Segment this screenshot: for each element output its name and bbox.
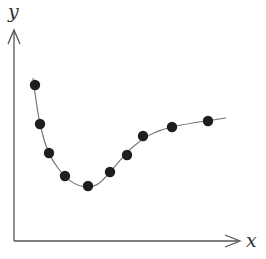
data-point [35,119,45,129]
x-axis-label: x [246,229,257,251]
data-point [60,171,70,181]
data-point [30,80,40,90]
data-point [167,122,177,132]
data-point [105,167,115,177]
data-point [44,148,54,158]
fitted-curve [33,78,226,187]
chart: y x [0,0,266,259]
data-point [203,116,213,126]
data-point [83,181,93,191]
data-points [30,80,213,191]
y-axis-label: y [7,0,19,22]
data-point [138,131,148,141]
data-point [122,150,132,160]
